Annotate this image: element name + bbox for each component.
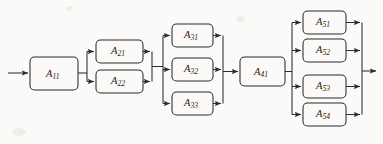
reliability-block-diagram: A11 A21 A22	[0, 0, 383, 144]
block-A52[interactable]: A52	[303, 39, 346, 62]
block-A21[interactable]: A21	[96, 40, 143, 63]
block-A22[interactable]: A22	[96, 70, 143, 93]
paper-speck	[12, 128, 26, 136]
block-A54[interactable]: A54	[303, 103, 346, 126]
diagram-canvas: A11 A21 A22	[0, 0, 383, 144]
link-stage5-to-output	[346, 23, 376, 115]
block-A53[interactable]: A53	[303, 75, 346, 98]
block-A31[interactable]: A31	[172, 24, 213, 47]
link-A41-to-stage5	[285, 23, 301, 115]
link-stage3-to-A41	[213, 36, 238, 104]
block-A51[interactable]: A51	[303, 11, 346, 34]
block-A11[interactable]: A11	[30, 57, 78, 90]
link-A11-to-stage2	[78, 52, 94, 82]
paper-speck	[236, 16, 245, 22]
block-A41[interactable]: A41	[240, 57, 285, 86]
block-A32[interactable]: A32	[172, 58, 213, 81]
block-A33[interactable]: A33	[172, 92, 213, 115]
paper-speck	[66, 6, 73, 11]
link-stage2-to-stage3	[143, 36, 170, 104]
